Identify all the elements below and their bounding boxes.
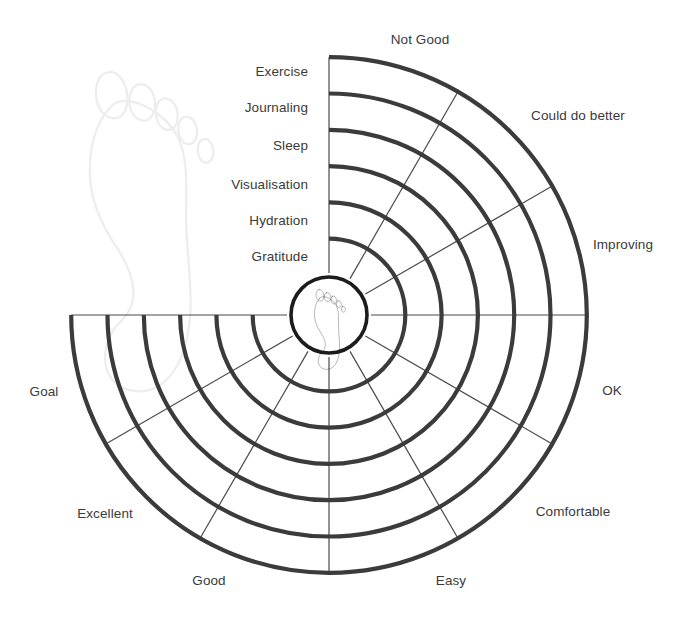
ring-label-exercise: Exercise [255, 65, 308, 80]
sector-label-could-do-better: Could do better [531, 109, 625, 124]
sector-label-comfortable: Comfortable [536, 505, 611, 520]
ring-label-sleep: Sleep [273, 139, 308, 154]
sector-label-easy: Easy [436, 574, 466, 589]
ring-label-visualisation: Visualisation [231, 178, 308, 193]
ring-label-gratitude: Gratitude [252, 250, 308, 265]
wheel-of-life-chart: Exercise Journaling Sleep Visualisation … [0, 0, 690, 623]
sector-label-not-good: Not Good [391, 33, 450, 48]
ring-label-journaling: Journaling [245, 101, 308, 116]
sector-label-improving: Improving [593, 238, 653, 253]
sector-label-ok: OK [602, 384, 622, 399]
sector-label-excellent: Excellent [77, 507, 133, 522]
sector-label-goal: Goal [30, 385, 59, 400]
sector-label-good: Good [192, 574, 225, 589]
ring-label-hydration: Hydration [249, 214, 308, 229]
wheel-svg [0, 0, 690, 623]
hub-circle [291, 277, 367, 353]
